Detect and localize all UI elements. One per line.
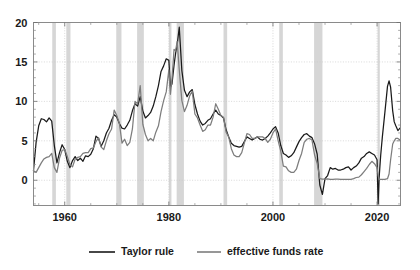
y-axis-tick-label: 15	[15, 56, 27, 68]
recession-band	[116, 23, 121, 206]
y-axis-tick-label: 5	[21, 135, 27, 147]
chart-background	[0, 0, 420, 270]
recession-band	[66, 23, 70, 206]
y-axis-tick-label: 0	[21, 174, 27, 186]
x-axis-tick-label: 1980	[157, 211, 181, 223]
x-axis-tick-label: 2020	[365, 211, 389, 223]
recession-band	[169, 23, 172, 206]
x-axis-tick-label: 2000	[261, 211, 285, 223]
taylor-rule-vs-effective-funds-rate-chart: 05101520 1960198020002020 Taylor ruleeff…	[0, 0, 420, 270]
chart-figure: 05101520 1960198020002020 Taylor ruleeff…	[0, 0, 420, 270]
recession-band	[224, 23, 228, 206]
y-axis-tick-label: 20	[15, 17, 27, 29]
y-axis-tick-label: 10	[15, 95, 27, 107]
x-axis-tick-label: 1960	[52, 211, 76, 223]
recession-band	[52, 23, 56, 206]
recession-band	[137, 23, 144, 206]
recession-band	[314, 23, 322, 206]
recession-band	[279, 23, 283, 206]
legend-item-label: effective funds rate	[227, 245, 323, 257]
legend-item-label: Taylor rule	[121, 245, 174, 257]
